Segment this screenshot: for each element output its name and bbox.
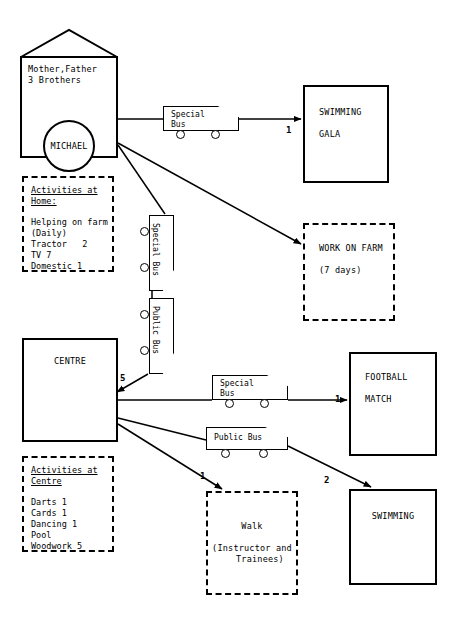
special-bus-icon: Special Bus [163,106,239,140]
edge-count-swimming: 2 [324,476,329,485]
bus-wheel-icon [140,263,149,272]
public-bus-label: Public Bus [214,433,262,443]
edge-count-walk: 1 [200,472,205,481]
swimming-gala-node: SWIMMING GALA [303,85,389,183]
special-bus-icon: Special Bus [140,215,174,291]
bus-wheel-icon [260,399,269,408]
football-match-node: FOOTBALL MATCH [349,352,437,456]
swimming-node: SWIMMING [349,489,437,585]
centre-activities-box: Activities at Centre Darts 1 Cards 1 Dan… [22,456,114,552]
swimming-label: SWIMMING [351,511,435,522]
work-on-farm-label: WORK ON FARM (7 days) [305,243,393,276]
public-bus-icon: Public Bus [206,427,288,461]
bus-wheel-icon [225,399,234,408]
centre-node: CENTRE [22,338,118,442]
public-bus-label: Public Bus [150,306,160,354]
walk-node: Walk (Instructor and Trainees) [206,491,298,595]
home-activities-box: Activities at Home: Helping on farm (Dai… [22,176,114,272]
edge-count-football: 1 [335,395,340,404]
special-bus-label: Special Bus [220,379,254,399]
centre-activities-list: Darts 1 Cards 1 Dancing 1 Pool Woodwork … [31,497,106,552]
bus-wheel-icon [140,346,149,355]
football-match-label: FOOTBALL MATCH [351,372,435,405]
bus-wheel-icon [176,130,185,139]
special-bus-label: Special Bus [171,110,205,130]
home-node: Mother,Father 3 Brothers MICHAEL [20,28,118,158]
special-bus-icon: Special Bus [212,375,288,409]
public-bus-icon: Public Bus [140,298,174,374]
bus-wheel-icon [259,449,268,458]
centre-activities-title: Activities at Centre [31,465,106,487]
walk-label: Walk (Instructor and Trainees) [208,521,296,565]
bus-wheel-icon [221,449,230,458]
swimming-gala-label: SWIMMING GALA [305,107,387,140]
edge-count-gala: 1 [286,126,291,135]
house-family-label: Mother,Father 3 Brothers [28,64,112,86]
house-roof-icon [20,28,118,58]
home-activities-list: Helping on farm (Daily) Tractor 2 TV 7 D… [31,217,106,272]
edge-count-centre-in: 5 [120,374,125,383]
michael-circle: MICHAEL [43,120,95,172]
bus-wheel-icon [211,130,220,139]
diagram-canvas: Mother,Father 3 Brothers MICHAEL Activit… [0,0,458,641]
bus-wheel-icon [140,310,149,319]
special-bus-label: Special Bus [150,223,160,276]
bus-wheel-icon [140,227,149,236]
home-activities-title: Activities at Home: [31,185,106,207]
work-on-farm-node: WORK ON FARM (7 days) [303,223,395,321]
michael-label: MICHAEL [50,141,87,152]
centre-label: CENTRE [24,356,116,367]
